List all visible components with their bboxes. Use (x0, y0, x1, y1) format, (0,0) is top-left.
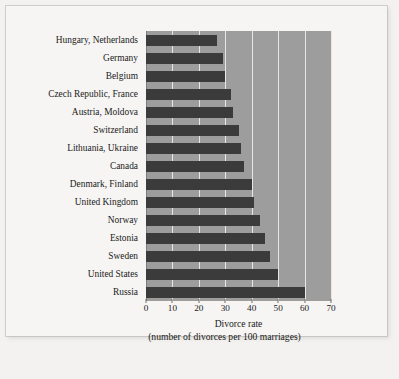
gridline-70 (331, 31, 332, 301)
bar (146, 107, 233, 118)
x-tick-label-10: 10 (168, 303, 177, 313)
y-axis-label: Norway (108, 215, 138, 226)
y-axis-label: Belgium (106, 71, 138, 82)
bar-row (146, 143, 331, 154)
bar (146, 125, 239, 136)
x-axis-title-line2: (number of divorces per 100 marriages) (118, 331, 331, 344)
bar (146, 35, 217, 46)
bar (146, 143, 241, 154)
x-tick-label-40: 40 (247, 303, 256, 313)
x-tick-label-50: 50 (274, 303, 283, 313)
bar-series (146, 31, 331, 301)
y-axis-label: Czech Republic, France (48, 89, 138, 100)
bar-row (146, 269, 331, 280)
y-axis-label: Canada (110, 161, 138, 172)
bar (146, 89, 231, 100)
y-axis-label: Denmark, Finland (70, 179, 138, 190)
y-axis-label: Russia (113, 287, 138, 298)
y-axis-labels: Hungary, NetherlandsGermanyBelgiumCzech … (0, 31, 142, 301)
x-tick-label-60: 60 (300, 303, 309, 313)
x-axis-title: Divorce rate (number of divorces per 100… (146, 318, 331, 343)
x-tick-label-70: 70 (326, 303, 335, 313)
y-axis-label: Sweden (108, 251, 138, 262)
bar-row (146, 71, 331, 82)
bar-row (146, 215, 331, 226)
figure-container: Hungary, NetherlandsGermanyBelgiumCzech … (0, 0, 399, 379)
bar-row (146, 89, 331, 100)
bar-row (146, 179, 331, 190)
y-axis-label: Hungary, Netherlands (56, 35, 138, 46)
bar-row (146, 107, 331, 118)
bar (146, 197, 254, 208)
bar-row (146, 197, 331, 208)
y-axis-label: United States (88, 269, 138, 280)
bar-row (146, 251, 331, 262)
y-axis-label: United Kingdom (75, 197, 138, 208)
bar (146, 233, 265, 244)
plot-area (146, 31, 331, 301)
bar-row (146, 161, 331, 172)
y-axis-label: Germany (103, 53, 138, 64)
x-tick-label-20: 20 (194, 303, 203, 313)
y-axis-label: Lithuania, Ukraine (67, 143, 138, 154)
x-axis-ticks: 010203040506070 (146, 303, 331, 319)
bar-row (146, 125, 331, 136)
x-axis-title-line1: Divorce rate (215, 318, 263, 329)
bar (146, 251, 270, 262)
x-tick-label-30: 30 (221, 303, 230, 313)
bar (146, 269, 278, 280)
y-axis-label: Switzerland (93, 125, 138, 136)
bar (146, 179, 252, 190)
bar (146, 287, 305, 298)
bar (146, 215, 260, 226)
bar-row (146, 35, 331, 46)
bar-row (146, 53, 331, 64)
bar (146, 161, 244, 172)
bar (146, 71, 225, 82)
bar-row (146, 287, 331, 298)
bar-row (146, 233, 331, 244)
y-axis-label: Estonia (110, 233, 138, 244)
y-axis-label: Austria, Moldova (72, 107, 138, 118)
x-tick-label-0: 0 (144, 303, 149, 313)
bar (146, 53, 223, 64)
